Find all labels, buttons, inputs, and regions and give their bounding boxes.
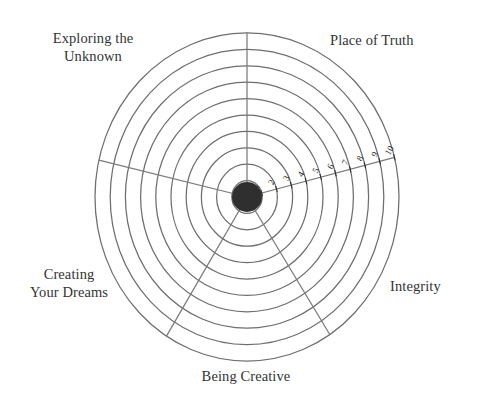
center-hub (232, 182, 262, 212)
axis-label-place-of-truth: Place of Truth (330, 32, 470, 50)
axis-label-exploring-the-unknown: Exploring the Unknown (18, 30, 168, 65)
axis-label-creating-your-dreams: Creating Your Dreams (6, 266, 132, 301)
radar-wheel-figure: 12345678910 Exploring the Unknown Place … (0, 0, 481, 409)
axis-label-being-creative: Being Creative (166, 368, 326, 386)
axis-label-integrity: Integrity (390, 278, 476, 296)
